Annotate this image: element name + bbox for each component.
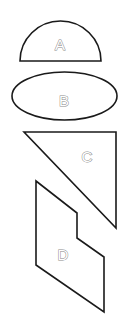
- shapes-diagram: A B C D: [0, 0, 128, 322]
- shape-a: A: [20, 21, 101, 61]
- shape-a-label: A: [55, 36, 65, 53]
- shape-d-label: D: [58, 246, 69, 263]
- shape-b: B: [12, 72, 117, 120]
- shape-b-label: B: [59, 92, 69, 109]
- shape-c-label: C: [82, 148, 93, 165]
